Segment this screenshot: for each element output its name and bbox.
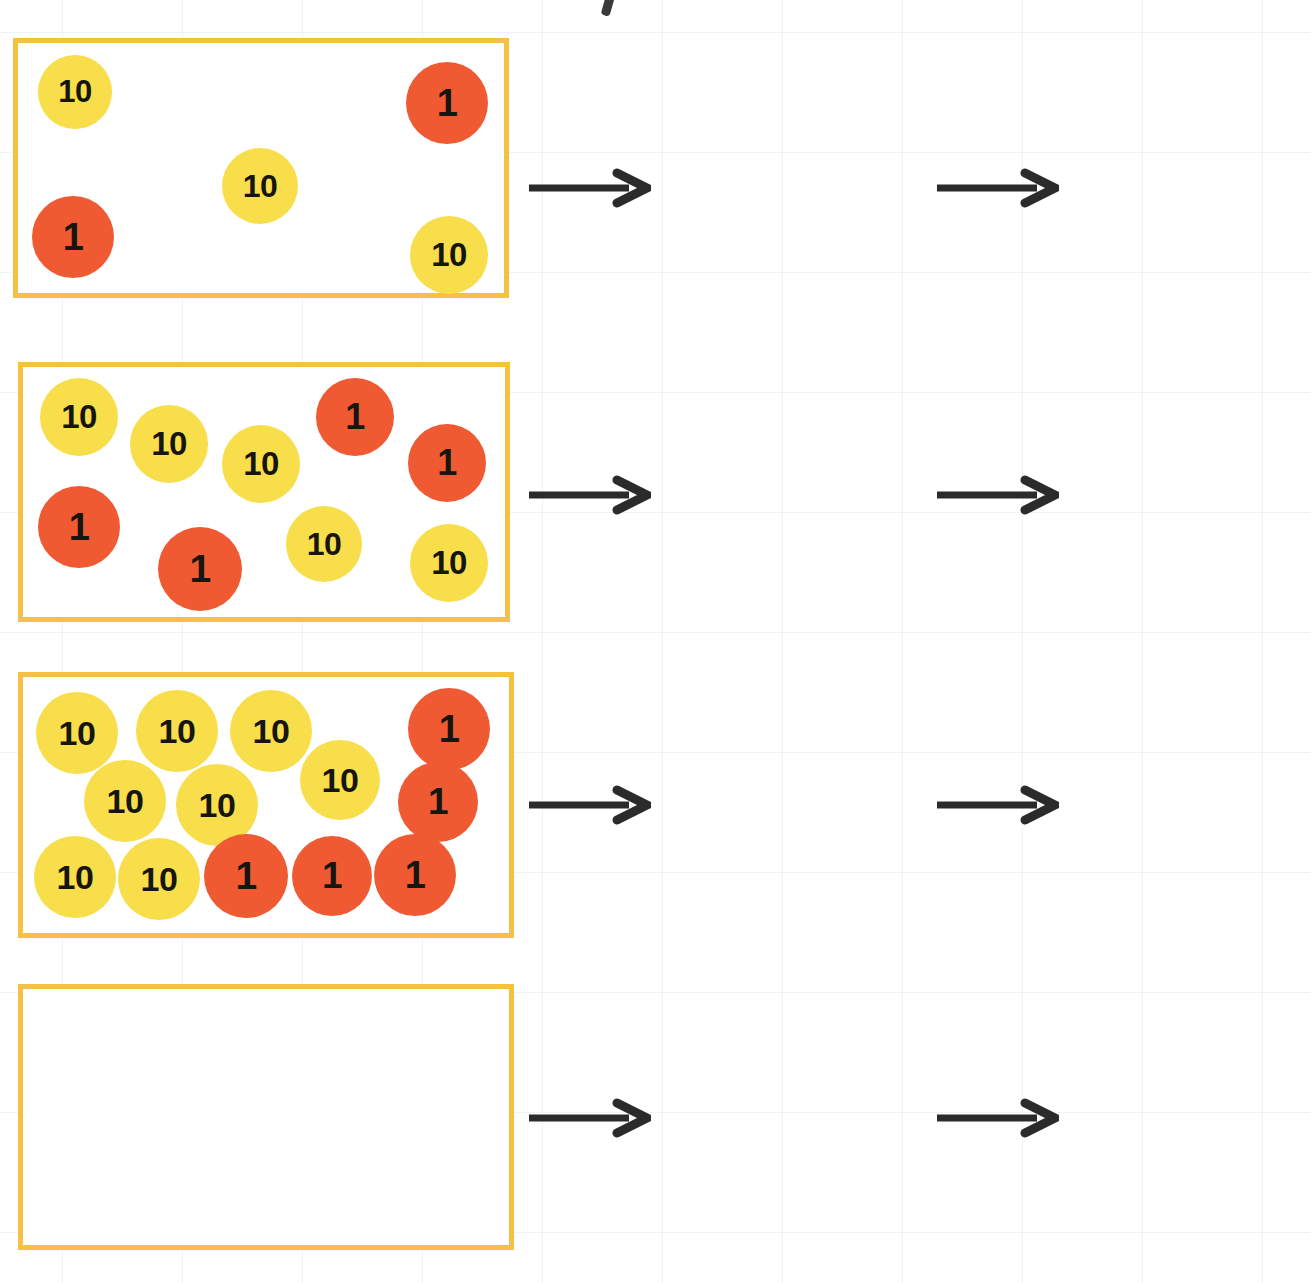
place-value-disc-one[interactable]: 1 bbox=[316, 378, 394, 456]
place-value-disc-one[interactable]: 1 bbox=[374, 834, 456, 916]
place-value-disc-ten[interactable]: 10 bbox=[286, 506, 362, 582]
place-value-disc-ten[interactable]: 10 bbox=[136, 690, 218, 772]
place-value-disc-ten[interactable]: 10 bbox=[130, 405, 208, 483]
arrow-discs-to-cards bbox=[527, 785, 651, 825]
place-value-disc-one[interactable]: 1 bbox=[292, 836, 372, 916]
place-value-disc-ten[interactable]: 10 bbox=[84, 760, 166, 842]
disc-box[interactable] bbox=[18, 984, 514, 1250]
disc-box[interactable]: 101010110101011010111 bbox=[18, 672, 514, 938]
place-value-disc-ten[interactable]: 10 bbox=[222, 148, 298, 224]
place-value-disc-ten[interactable]: 10 bbox=[410, 524, 488, 602]
arrow-discs-to-cards bbox=[527, 1098, 651, 1138]
place-value-disc-ten[interactable]: 10 bbox=[230, 690, 312, 772]
arrow-cards-to-result bbox=[935, 785, 1059, 825]
arrow-cards-to-result bbox=[935, 1098, 1059, 1138]
place-value-disc-one[interactable]: 1 bbox=[398, 762, 478, 842]
place-value-disc-one[interactable]: 1 bbox=[408, 424, 486, 502]
place-value-disc-one[interactable]: 1 bbox=[158, 527, 242, 611]
stray-mark-icon bbox=[601, 0, 617, 17]
place-value-disc-ten[interactable]: 10 bbox=[300, 740, 380, 820]
arrow-cards-to-result bbox=[935, 475, 1059, 515]
place-value-disc-one[interactable]: 1 bbox=[38, 486, 120, 568]
place-value-disc-one[interactable]: 1 bbox=[406, 62, 488, 144]
disc-box[interactable]: 10110110 bbox=[13, 38, 509, 298]
place-value-disc-ten[interactable]: 10 bbox=[38, 55, 112, 129]
place-value-disc-one[interactable]: 1 bbox=[32, 196, 114, 278]
place-value-disc-one[interactable]: 1 bbox=[204, 834, 288, 918]
arrow-cards-to-result bbox=[935, 168, 1059, 208]
place-value-disc-ten[interactable]: 10 bbox=[36, 692, 118, 774]
place-value-disc-ten[interactable]: 10 bbox=[410, 216, 488, 294]
place-value-disc-ten[interactable]: 10 bbox=[118, 838, 200, 920]
place-value-disc-ten[interactable]: 10 bbox=[222, 425, 300, 503]
worksheet-sheet: 1011011010101101111010101010110101011010… bbox=[0, 0, 1311, 1283]
place-value-disc-ten[interactable]: 10 bbox=[34, 836, 116, 918]
arrow-discs-to-cards bbox=[527, 168, 651, 208]
place-value-disc-ten[interactable]: 10 bbox=[40, 378, 118, 456]
arrow-discs-to-cards bbox=[527, 475, 651, 515]
place-value-disc-one[interactable]: 1 bbox=[408, 688, 490, 770]
disc-box[interactable]: 10101101111010 bbox=[18, 362, 510, 622]
